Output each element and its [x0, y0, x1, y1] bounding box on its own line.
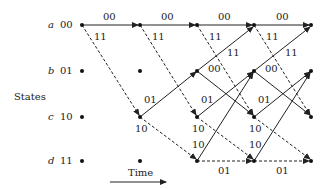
- edge-label-dd-1: 01: [218, 166, 231, 176]
- edge-label-cd-1: 10: [135, 124, 148, 134]
- state-letter-a: a: [48, 20, 54, 30]
- state-code-d: 11: [60, 156, 73, 166]
- time-axis-label: Time: [128, 168, 153, 178]
- edge-label-dd-2: 01: [276, 166, 289, 176]
- edge-label-db-2: 10: [249, 140, 262, 150]
- edge-label-cb-3: 01: [258, 95, 271, 105]
- edge-label-ac-4: 11: [266, 32, 279, 42]
- edge-label-cb-2: 01: [201, 95, 214, 105]
- edge-label-aa-4: 00: [276, 12, 289, 22]
- edge-label-cd-3: 10: [249, 124, 262, 134]
- state-letter-b: b: [48, 66, 54, 76]
- edge-label-ac-3: 11: [209, 32, 222, 42]
- edge-label-cb-1: 01: [144, 95, 157, 105]
- edge-label-ac-2: 11: [152, 32, 165, 42]
- edge-label-ac-1: 11: [94, 32, 107, 42]
- state-code-a: 00: [60, 20, 73, 30]
- edge-label-ba-2: 11: [285, 48, 298, 58]
- edge-label-bc-1: 00: [208, 64, 221, 74]
- state-code-c: 10: [60, 112, 73, 122]
- states-axis-label: States: [14, 92, 46, 102]
- edge-label-db-1: 10: [192, 140, 205, 150]
- edge-label-aa-2: 00: [161, 12, 174, 22]
- state-letter-c: c: [48, 112, 54, 122]
- edge-label-ba-1: 11: [227, 48, 240, 58]
- trellis-diagram: a 00 b 01 c 10 d 11 States Time 00 00 00…: [0, 0, 330, 189]
- edge-label-bc-2: 00: [265, 64, 278, 74]
- edge-label-aa-1: 00: [103, 12, 116, 22]
- edge-label-aa-3: 00: [218, 12, 231, 22]
- state-letter-d: d: [48, 156, 54, 166]
- edge-label-cd-2: 10: [192, 124, 205, 134]
- state-code-b: 01: [60, 66, 73, 76]
